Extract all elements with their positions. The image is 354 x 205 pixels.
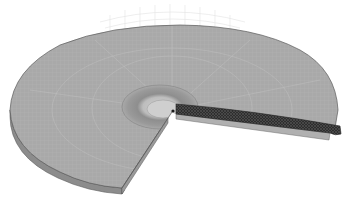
crack-tip-marker [171,109,174,112]
mesh-figure [0,0,354,205]
